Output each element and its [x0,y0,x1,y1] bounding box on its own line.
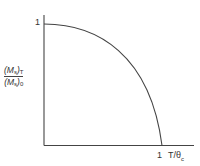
den-main: (M [4,77,14,87]
x-axis-label-sub: c [181,156,184,162]
num-main: (M [4,65,14,75]
y-axis-label: (Ms)T (Ms)0 [4,66,23,87]
den-subscript: 0 [20,81,23,87]
magnetization-curve [44,24,162,146]
x-axis-label: T/θc [168,151,184,162]
y-tick-label-1: 1 [35,18,40,27]
chart-plot-area [0,0,200,166]
y-axis-label-numerator: (Ms)T [4,66,23,77]
num-subscript: T [20,69,24,75]
x-axis-label-main: T/θ [168,150,181,160]
x-tick-label-1: 1 [157,151,162,160]
y-axis-label-denominator: (Ms)0 [4,77,23,87]
